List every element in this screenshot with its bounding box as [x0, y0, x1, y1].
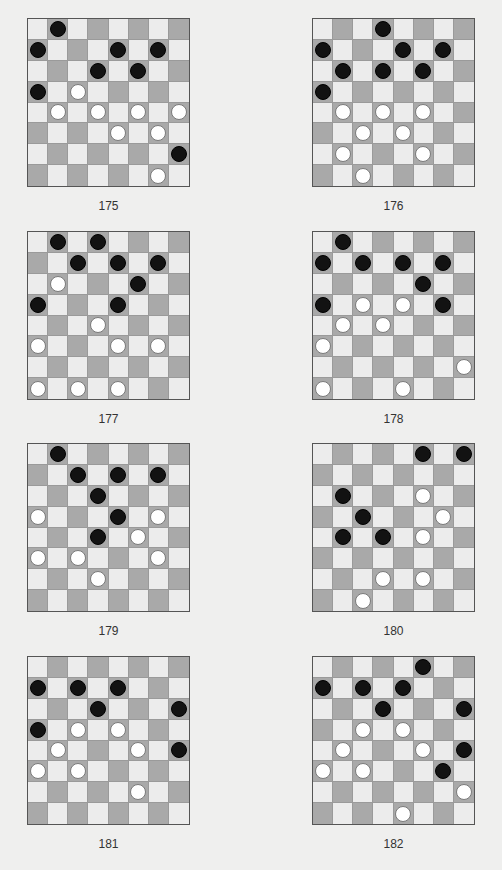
light-square	[454, 678, 474, 699]
dark-square	[333, 569, 353, 590]
light-square	[394, 782, 414, 803]
white-checker-piece	[50, 742, 66, 758]
dark-square	[333, 103, 353, 124]
dark-square	[414, 444, 434, 465]
dark-square	[313, 548, 333, 569]
checkerboard	[27, 18, 190, 187]
light-square	[109, 528, 129, 549]
dark-square	[48, 741, 68, 762]
dark-square	[68, 507, 88, 528]
light-square	[353, 357, 373, 378]
white-checker-piece	[395, 806, 411, 822]
light-square	[454, 40, 474, 61]
light-square	[434, 782, 454, 803]
black-checker-piece	[435, 255, 451, 271]
white-checker-piece	[130, 784, 146, 800]
dark-square	[68, 803, 88, 824]
white-checker-piece	[70, 722, 86, 738]
checkerboard	[312, 656, 475, 825]
black-checker-piece	[110, 467, 126, 483]
dark-square	[313, 803, 333, 824]
light-square	[68, 569, 88, 590]
light-square	[454, 465, 474, 486]
dark-square	[149, 165, 169, 186]
dark-square	[48, 486, 68, 507]
dark-square	[414, 569, 434, 590]
dark-square	[68, 465, 88, 486]
dark-square	[129, 274, 149, 295]
dark-square	[68, 40, 88, 61]
light-square	[333, 548, 353, 569]
dark-square	[149, 507, 169, 528]
light-square	[313, 699, 333, 720]
dark-square	[68, 720, 88, 741]
dark-square	[333, 144, 353, 165]
light-square	[48, 378, 68, 399]
dark-square	[454, 699, 474, 720]
light-square	[169, 803, 189, 824]
white-checker-piece	[415, 146, 431, 162]
dark-square	[48, 274, 68, 295]
light-square	[313, 103, 333, 124]
light-square	[434, 316, 454, 337]
light-square	[109, 444, 129, 465]
dark-square	[68, 82, 88, 103]
dark-square	[48, 316, 68, 337]
light-square	[88, 803, 108, 824]
dark-square	[169, 782, 189, 803]
light-square	[373, 82, 393, 103]
puzzle-number-label: 176	[312, 199, 475, 213]
black-checker-piece	[315, 297, 331, 313]
dark-square	[394, 465, 414, 486]
dark-square	[68, 761, 88, 782]
dark-square	[414, 741, 434, 762]
light-square	[333, 720, 353, 741]
white-checker-piece	[150, 168, 166, 184]
white-checker-piece	[456, 359, 472, 375]
dark-square	[313, 82, 333, 103]
dark-square	[313, 761, 333, 782]
dark-square	[109, 165, 129, 186]
black-checker-piece	[70, 680, 86, 696]
dark-square	[333, 699, 353, 720]
light-square	[353, 782, 373, 803]
light-square	[394, 103, 414, 124]
dark-square	[454, 316, 474, 337]
dark-square	[353, 295, 373, 316]
black-checker-piece	[50, 21, 66, 37]
dark-square	[88, 357, 108, 378]
light-square	[454, 295, 474, 316]
dark-square	[394, 336, 414, 357]
dark-square	[129, 569, 149, 590]
light-square	[373, 40, 393, 61]
light-square	[434, 444, 454, 465]
black-checker-piece	[335, 234, 351, 250]
black-checker-piece	[375, 63, 391, 79]
black-checker-piece	[171, 701, 187, 717]
black-checker-piece	[395, 42, 411, 58]
light-square	[68, 19, 88, 40]
dark-square	[373, 699, 393, 720]
light-square	[454, 507, 474, 528]
light-square	[333, 761, 353, 782]
light-square	[434, 144, 454, 165]
white-checker-piece	[70, 84, 86, 100]
light-square	[149, 316, 169, 337]
black-checker-piece	[395, 255, 411, 271]
puzzle-180: 180	[312, 443, 476, 612]
black-checker-piece	[90, 63, 106, 79]
light-square	[149, 528, 169, 549]
dark-square	[88, 61, 108, 82]
light-square	[434, 699, 454, 720]
light-square	[68, 232, 88, 253]
light-square	[414, 378, 434, 399]
light-square	[28, 232, 48, 253]
light-square	[373, 165, 393, 186]
dark-square	[68, 678, 88, 699]
black-checker-piece	[415, 63, 431, 79]
light-square	[333, 253, 353, 274]
dark-square	[394, 803, 414, 824]
white-checker-piece	[130, 104, 146, 120]
dark-square	[48, 19, 68, 40]
light-square	[48, 253, 68, 274]
